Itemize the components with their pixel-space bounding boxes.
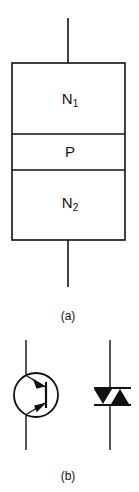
layer-p-letter: P — [65, 143, 75, 160]
caption-a: (a) — [50, 309, 86, 323]
layer-n2-subscript: 2 — [73, 202, 79, 213]
transistor-upper-arrow-icon — [34, 380, 44, 388]
layer-label-n1: N1 — [52, 90, 88, 109]
transistor-symbol — [14, 340, 58, 450]
diac-down-triangle-icon — [94, 389, 112, 404]
caption-b: (b) — [50, 469, 86, 483]
layer-n2-letter: N — [62, 194, 73, 211]
diagram-canvas — [0, 0, 139, 492]
diac-up-triangle-icon — [111, 389, 129, 404]
layer-label-n2: N2 — [52, 194, 88, 213]
layer-n1-subscript: 1 — [73, 98, 79, 109]
diac-symbol — [94, 340, 131, 450]
layer-n1-letter: N — [62, 90, 73, 107]
layer-label-p: P — [52, 143, 88, 160]
transistor-envelope — [14, 373, 58, 417]
transistor-lower-arrow-icon — [35, 404, 44, 411]
